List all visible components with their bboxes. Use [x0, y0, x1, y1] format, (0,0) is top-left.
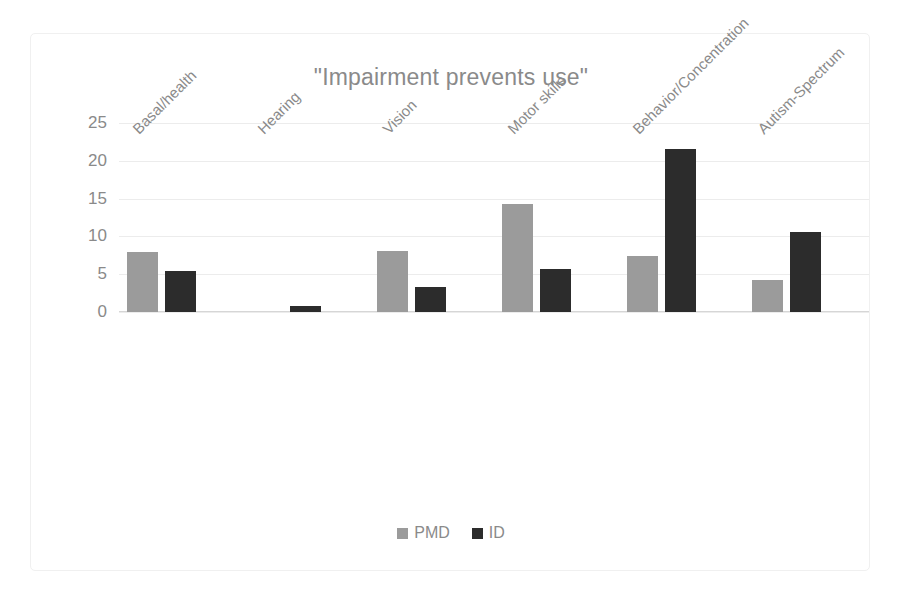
bar-group — [369, 123, 494, 312]
chart-container: "Impairment prevents use" 0510152025 Bas… — [30, 33, 870, 571]
bar-pmd-behavior-concentration[interactable] — [627, 256, 658, 312]
bar-id-hearing[interactable] — [290, 306, 321, 312]
legend-label: ID — [489, 524, 505, 542]
bar-pmd-basal-health[interactable] — [127, 252, 158, 312]
bar-pmd-motor-skills[interactable] — [502, 204, 533, 312]
legend-item-pmd[interactable]: PMD — [397, 524, 450, 542]
legend-swatch-icon — [472, 528, 483, 539]
chart-legend: PMDID — [31, 524, 871, 542]
bar-group — [619, 123, 744, 312]
y-axis-tick-label: 15 — [88, 189, 107, 209]
bar-group — [119, 123, 244, 312]
bar-id-basal-health[interactable] — [165, 271, 196, 312]
gridline — [119, 312, 869, 313]
chart-title: "Impairment prevents use" — [31, 64, 871, 91]
y-axis-tick-label: 10 — [88, 226, 107, 246]
bar-id-behavior-concentration[interactable] — [665, 149, 696, 312]
bar-id-motor-skills[interactable] — [540, 269, 571, 312]
bar-group — [494, 123, 619, 312]
bar-pmd-autism-spectrum[interactable] — [752, 280, 783, 312]
bar-pmd-vision[interactable] — [377, 251, 408, 312]
y-axis-tick-label: 20 — [88, 151, 107, 171]
plot-area: 0510152025 Basal/healthHearingVisionMoto… — [119, 123, 869, 312]
legend-item-id[interactable]: ID — [472, 524, 505, 542]
bar-id-autism-spectrum[interactable] — [790, 232, 821, 312]
bar-group — [744, 123, 869, 312]
bar-group — [244, 123, 369, 312]
y-axis-tick-label: 5 — [98, 264, 107, 284]
y-axis-tick-label: 25 — [88, 113, 107, 133]
y-axis-tick-label: 0 — [98, 302, 107, 322]
legend-label: PMD — [414, 524, 450, 542]
bar-id-vision[interactable] — [415, 287, 446, 312]
legend-swatch-icon — [397, 528, 408, 539]
